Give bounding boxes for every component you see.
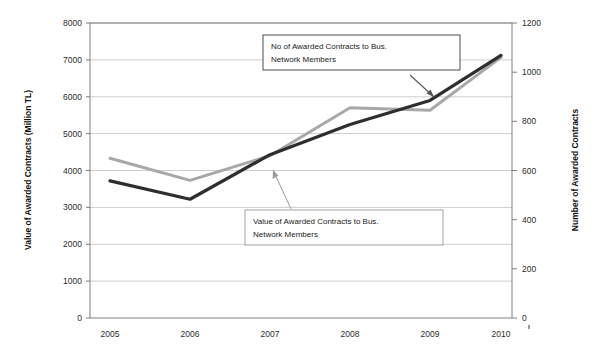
- right-tick-label-0: 0: [522, 313, 527, 323]
- x-tick-label-2006: 2006: [181, 329, 200, 339]
- chart-figure: 8000 7000 6000 5000 4000 3000 2000 1000 …: [0, 0, 606, 363]
- annotation-value-line2: Network Members: [253, 230, 318, 239]
- x-tick-label-2007: 2007: [261, 329, 280, 339]
- right-tick-label-1000: 1000: [522, 67, 541, 77]
- left-axis-title: Value of Awarded Contracts (Million TL): [23, 90, 33, 250]
- annotation-count-line2: Network Members: [271, 55, 336, 64]
- left-tick-label-4000: 4000: [63, 166, 82, 176]
- left-tick-label-3000: 3000: [63, 202, 82, 212]
- right-tick-label-600: 600: [522, 166, 536, 176]
- left-tick-label-2000: 2000: [63, 239, 82, 249]
- left-tick-label-1000: 1000: [63, 276, 82, 286]
- annotation-value-box: [245, 210, 443, 245]
- annotation-count-line1: No of Awarded Contracts to Bus.: [271, 42, 387, 51]
- left-tick-label-8000: 8000: [63, 18, 82, 28]
- x-tick-label-2008: 2008: [341, 329, 360, 339]
- annotation-count-box: [263, 35, 460, 70]
- chart-canvas: 8000 7000 6000 5000 4000 3000 2000 1000 …: [0, 0, 606, 363]
- right-axis-title: Number of Awarded Contracts: [570, 109, 580, 232]
- right-tick-label-400: 400: [522, 215, 536, 225]
- scan-artifact-speck: [528, 325, 530, 329]
- x-tick-label-2009: 2009: [421, 329, 440, 339]
- left-tick-label-7000: 7000: [63, 55, 82, 65]
- right-tick-label-800: 800: [522, 116, 536, 126]
- left-tick-label-0: 0: [77, 313, 82, 323]
- x-tick-label-2010: 2010: [492, 329, 511, 339]
- right-tick-label-1200: 1200: [522, 18, 541, 28]
- annotation-value-line1: Value of Awarded Contracts to Bus.: [253, 217, 379, 226]
- left-tick-label-5000: 5000: [63, 129, 82, 139]
- left-tick-label-6000: 6000: [63, 92, 82, 102]
- x-tick-label-2005: 2005: [101, 329, 120, 339]
- right-tick-label-200: 200: [522, 264, 536, 274]
